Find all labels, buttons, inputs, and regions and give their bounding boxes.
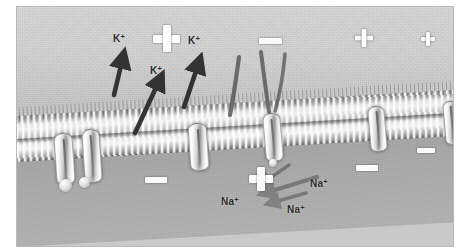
minus-charge-symbol (356, 165, 378, 171)
minus-charge-symbol (259, 38, 282, 44)
k-efflux-arrow (114, 57, 123, 95)
ion-label-k-1: K+ (113, 33, 125, 44)
ion-label-na-3: Na+ (287, 204, 305, 215)
na-influx-arrow (271, 193, 306, 203)
k-efflux-arrow (135, 79, 160, 133)
k-efflux-arrow (184, 62, 199, 107)
minus-charge-symbol (417, 148, 435, 153)
ion-label-k-3: K+ (150, 65, 162, 76)
ion-flux-arrows (17, 7, 453, 246)
plus-charge-symbol-medium (355, 29, 373, 47)
minus-charge-symbol (145, 177, 167, 183)
micrograph-panel: K+ K+ K+ Na+ Na+ Na+ (16, 6, 454, 247)
plus-charge-symbol-large-inner (249, 167, 273, 191)
ion-label-na-1: Na+ (221, 196, 239, 207)
membrane-figure: K+ K+ K+ Na+ Na+ Na+ (0, 0, 468, 251)
ion-label-k-2: K+ (188, 35, 200, 46)
ion-label-na-2: Na+ (310, 178, 328, 189)
plus-charge-symbol-large (153, 25, 180, 52)
plus-charge-symbol-small (421, 32, 435, 46)
